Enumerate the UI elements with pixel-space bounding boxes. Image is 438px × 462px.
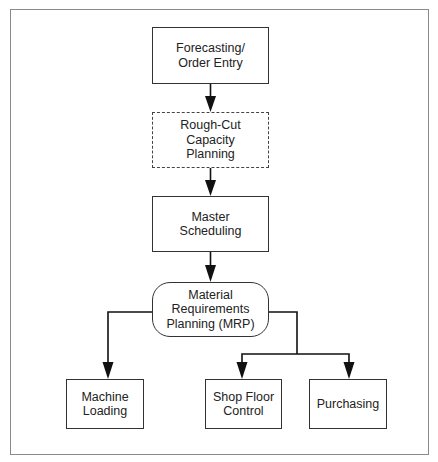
node-label: Rough-Cut Capacity Planning	[180, 118, 240, 162]
node-shop-floor-control: Shop Floor Control	[205, 379, 282, 429]
node-label: Master Scheduling	[180, 210, 242, 239]
node-label: Purchasing	[317, 397, 380, 412]
node-label: Machine Loading	[81, 390, 128, 419]
node-label: Forecasting/ Order Entry	[176, 41, 245, 70]
node-forecasting-order-entry: Forecasting/ Order Entry	[152, 27, 269, 84]
node-label: Material Requirements Planning (MRP)	[166, 288, 254, 332]
node-mrp: Material Requirements Planning (MRP)	[152, 282, 269, 337]
node-label: Shop Floor Control	[213, 390, 274, 419]
node-rough-cut-capacity-planning: Rough-Cut Capacity Planning	[152, 112, 269, 168]
node-purchasing: Purchasing	[309, 379, 387, 429]
node-master-scheduling: Master Scheduling	[152, 196, 269, 252]
node-machine-loading: Machine Loading	[66, 379, 144, 429]
